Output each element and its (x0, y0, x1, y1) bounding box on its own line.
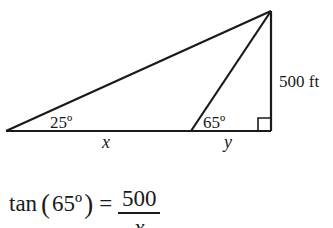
equation-function: tan (9, 191, 37, 217)
equation-equals: = (99, 191, 112, 217)
segment-y-label: y (222, 132, 232, 152)
equation-fraction: 500 x (118, 187, 160, 228)
angle-middle-label: 65º (203, 113, 225, 132)
equation-argument: 65º (52, 191, 82, 217)
fraction-denominator: x (134, 214, 144, 228)
fraction-numerator: 500 (120, 187, 159, 212)
equation-open-paren: ( (41, 191, 50, 218)
angle-left-label: 25º (50, 113, 72, 132)
segment-x-label: x (101, 132, 110, 152)
height-label: 500 ft (279, 72, 319, 91)
tangent-equation: tan ( 65º ) = 500 x (9, 180, 160, 228)
right-angle-marker (258, 118, 271, 131)
equation-close-paren: ) (84, 191, 93, 218)
